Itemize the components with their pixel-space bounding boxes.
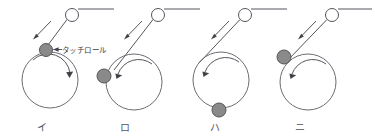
touch-roll-4 xyxy=(277,50,291,64)
touch-roll-2 xyxy=(97,69,111,83)
guide-roll-3 xyxy=(239,9,252,22)
figure-root: タッチロール イ ロ xyxy=(0,0,375,139)
panel-label-2: ロ xyxy=(120,122,130,133)
panel-label-4: ニ xyxy=(295,122,305,133)
rotation-arrow-2 xyxy=(115,60,152,79)
panel-3: ハ xyxy=(193,9,287,134)
rotation-arrow-3 xyxy=(202,58,239,77)
web-direction-arrow-1 xyxy=(33,21,51,40)
winder-roll-3 xyxy=(193,52,249,108)
panel-2: ロ xyxy=(97,9,200,134)
touch-roll-3 xyxy=(212,103,226,117)
panel-label-1: イ xyxy=(37,122,47,133)
rotation-arrow-4 xyxy=(289,60,326,79)
web-path-2 xyxy=(114,20,153,71)
panel-4: ニ xyxy=(277,9,372,134)
web-direction-arrow-4 xyxy=(298,21,316,40)
touch-roll-diagram: タッチロール イ ロ xyxy=(0,0,375,139)
touch-roll-callout xyxy=(53,47,62,52)
winder-roll-2 xyxy=(106,54,162,110)
web-direction-arrow-3 xyxy=(211,21,229,40)
winder-roll-1 xyxy=(22,52,78,108)
touch-roll-1 xyxy=(40,44,53,57)
guide-roll-1 xyxy=(66,9,79,22)
touch-roll-callout-label: タッチロール xyxy=(62,46,107,55)
panel-label-3: ハ xyxy=(210,122,220,133)
guide-roll-4 xyxy=(326,9,339,22)
guide-roll-2 xyxy=(152,9,165,22)
